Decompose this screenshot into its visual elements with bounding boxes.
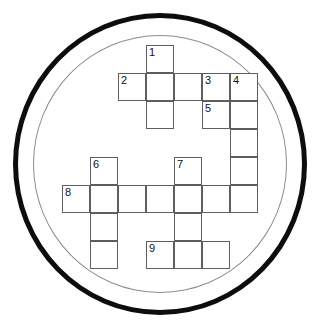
clue-number-7: 7 [177, 158, 183, 171]
cell[interactable] [90, 185, 118, 213]
cell-clue-5[interactable]: 5 [202, 101, 230, 129]
clue-number-5: 5 [205, 102, 211, 115]
cell[interactable] [174, 73, 202, 101]
clue-number-2: 2 [121, 74, 127, 87]
cell-clue-6[interactable]: 6 [90, 157, 118, 185]
cell[interactable] [146, 185, 174, 213]
clue-number-1: 1 [149, 46, 155, 59]
cell[interactable] [174, 185, 202, 213]
cell[interactable] [202, 185, 230, 213]
cell[interactable] [146, 73, 174, 101]
cell[interactable] [90, 213, 118, 241]
clue-number-8: 8 [65, 186, 71, 199]
cell[interactable] [230, 129, 258, 157]
clue-number-6: 6 [93, 158, 99, 171]
cell[interactable] [174, 241, 202, 269]
cell[interactable] [230, 157, 258, 185]
clue-number-3: 3 [205, 74, 211, 87]
clue-number-9: 9 [149, 242, 155, 255]
clue-number-4: 4 [233, 74, 239, 87]
crossword-puzzle: 123456789 [0, 0, 320, 328]
cell[interactable] [174, 213, 202, 241]
cell-clue-3[interactable]: 3 [202, 73, 230, 101]
cell-clue-4[interactable]: 4 [230, 73, 258, 101]
cell[interactable] [90, 241, 118, 269]
cell[interactable] [146, 101, 174, 129]
cell[interactable] [230, 185, 258, 213]
cell-clue-1[interactable]: 1 [146, 45, 174, 73]
cell-clue-7[interactable]: 7 [174, 157, 202, 185]
crossword-grid[interactable]: 123456789 [0, 0, 320, 328]
cell-clue-8[interactable]: 8 [62, 185, 90, 213]
cell[interactable] [230, 101, 258, 129]
cell[interactable] [202, 241, 230, 269]
cell[interactable] [118, 185, 146, 213]
cell-clue-2[interactable]: 2 [118, 73, 146, 101]
cell-clue-9[interactable]: 9 [146, 241, 174, 269]
